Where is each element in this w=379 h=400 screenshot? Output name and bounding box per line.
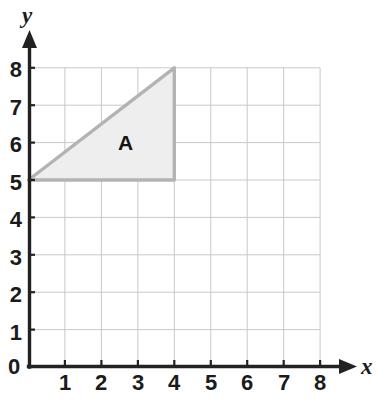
y-axis-label: y xyxy=(22,4,32,27)
coordinate-grid-figure: y x 0 1 2 3 4 5 6 7 8 1 2 3 4 5 6 7 8 A xyxy=(0,0,379,400)
y-axis-arrow-icon xyxy=(22,30,37,48)
x-tick-label-6: 6 xyxy=(236,372,258,394)
y-tick-label-4: 4 xyxy=(0,209,22,231)
x-tick-label-4: 4 xyxy=(163,372,185,394)
y-tick-label-5: 5 xyxy=(0,172,22,194)
x-tick-label-2: 2 xyxy=(90,372,112,394)
y-tick-label-1: 1 xyxy=(0,322,22,344)
axis-lines xyxy=(29,42,346,367)
x-tick-label-7: 7 xyxy=(273,372,295,394)
y-tick-label-8: 8 xyxy=(0,59,22,81)
y-tick-label-7: 7 xyxy=(0,97,22,119)
plot-canvas xyxy=(0,0,379,400)
origin-tick-label: 0 xyxy=(3,356,25,378)
y-tick-label-3: 3 xyxy=(0,247,22,269)
x-tick-label-5: 5 xyxy=(200,372,222,394)
x-tick-label-3: 3 xyxy=(127,372,149,394)
shape-label-a: A xyxy=(118,132,133,153)
x-axis-arrow-icon xyxy=(339,359,357,374)
y-tick-label-6: 6 xyxy=(0,134,22,156)
x-axis-label: x xyxy=(361,355,373,378)
y-tick-label-2: 2 xyxy=(0,284,22,306)
x-tick-label-8: 8 xyxy=(309,372,331,394)
x-tick-label-1: 1 xyxy=(54,372,76,394)
